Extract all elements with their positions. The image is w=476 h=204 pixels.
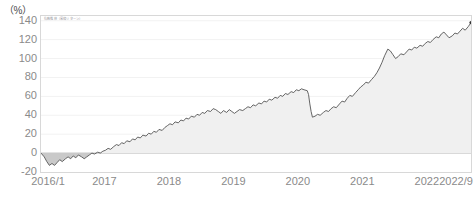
series-plot <box>41 16 471 172</box>
x-axis-tick-label: 2020 <box>286 176 310 187</box>
x-axis-tick-label: 2018 <box>157 176 181 187</box>
area-fill-positive <box>41 23 471 166</box>
y-axis-tick-label: 140 <box>3 14 37 25</box>
y-axis: 140120100806040200-20 <box>0 0 37 204</box>
y-axis-tick-label: 40 <box>3 109 37 120</box>
y-axis-tick-label: 120 <box>3 33 37 44</box>
x-axis-tick-label: 2021 <box>350 176 374 187</box>
x-axis-tick-label: 2019 <box>221 176 245 187</box>
percent-return-area-chart: （%） 140120100806040200-20 指数推移（累積リターン） 2… <box>0 0 476 204</box>
y-axis-tick-label: 0 <box>3 147 37 158</box>
y-axis-tick-label: 100 <box>3 52 37 63</box>
y-axis-tick-label: 60 <box>3 90 37 101</box>
x-axis-tick-label: 2022/9 <box>439 176 473 187</box>
x-axis: 2016/12017201820192020202120222022/9 <box>0 176 476 196</box>
x-axis-tick-label: 2017 <box>92 176 116 187</box>
end-point-marker <box>469 21 471 24</box>
x-axis-tick-label: 2016/1 <box>31 176 65 187</box>
x-axis-tick-label: 2022 <box>415 176 439 187</box>
plot-area: 指数推移（累積リターン） <box>40 15 472 173</box>
y-axis-tick-label: 80 <box>3 71 37 82</box>
y-axis-tick-label: 20 <box>3 128 37 139</box>
